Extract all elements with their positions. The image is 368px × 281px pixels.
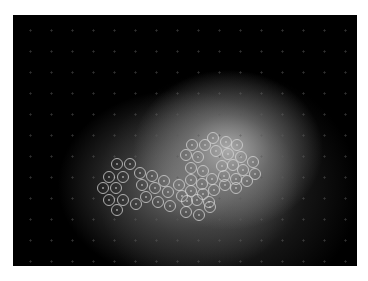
atom-center-dot <box>129 163 131 165</box>
atom-center-dot <box>185 154 187 156</box>
atom-center-dot <box>196 199 198 201</box>
atom-center-dot <box>209 206 211 208</box>
atom-center-dot <box>202 193 204 195</box>
atom-center-dot <box>254 173 256 175</box>
atom-center-dot <box>190 179 192 181</box>
atom-center-dot <box>178 184 180 186</box>
atom-center-dot <box>212 137 214 139</box>
atom-center-dot <box>232 164 234 166</box>
atom-center-dot <box>235 178 237 180</box>
atom-center-dot <box>102 187 104 189</box>
atom-center-dot <box>122 199 124 201</box>
atom-center-dot <box>221 165 223 167</box>
atom-center-dot <box>169 205 171 207</box>
atom-center-dot <box>197 156 199 158</box>
atom-center-dot <box>154 187 156 189</box>
atom-center-dot <box>252 161 254 163</box>
atom-center-dot <box>236 144 238 146</box>
atom-center-dot <box>242 169 244 171</box>
atom-center-dot <box>198 214 200 216</box>
atom-center-dot <box>151 175 153 177</box>
atom-center-dot <box>223 175 225 177</box>
atom-center-dot <box>235 187 237 189</box>
atom-center-dot <box>204 144 206 146</box>
atom-center-dot <box>213 189 215 191</box>
atom-center-dot <box>139 172 141 174</box>
marker-overlay <box>0 0 368 281</box>
atom-center-dot <box>227 153 229 155</box>
atom-center-dot <box>116 163 118 165</box>
atom-center-dot <box>115 187 117 189</box>
atom-center-dot <box>135 203 137 205</box>
atom-center-dot <box>202 170 204 172</box>
atom-center-dot <box>186 200 188 202</box>
atom-center-dot <box>201 183 203 185</box>
atom-center-dot <box>224 184 226 186</box>
atom-center-dot <box>145 196 147 198</box>
atom-center-dot <box>181 195 183 197</box>
atom-center-dot <box>211 178 213 180</box>
atom-center-dot <box>215 150 217 152</box>
atom-center-dot <box>190 167 192 169</box>
atom-center-dot <box>141 184 143 186</box>
atom-center-dot <box>157 201 159 203</box>
atom-center-dot <box>225 141 227 143</box>
atom-center-dot <box>185 211 187 213</box>
atom-center-dot <box>163 180 165 182</box>
atom-center-dot <box>240 156 242 158</box>
atom-center-dot <box>167 191 169 193</box>
atom-center-dot <box>246 180 248 182</box>
atom-center-dot <box>191 144 193 146</box>
atom-center-dot <box>108 176 110 178</box>
atom-center-dot <box>116 209 118 211</box>
atom-center-dot <box>122 176 124 178</box>
atom-center-dot <box>190 190 192 192</box>
atom-center-dot <box>108 199 110 201</box>
